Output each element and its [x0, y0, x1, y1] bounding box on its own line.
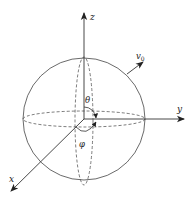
v0-vector — [127, 62, 143, 74]
spherical-coordinates-diagram: z y x v0 θ φ — [0, 0, 193, 202]
x-axis — [11, 119, 84, 191]
v0-label: v0 — [136, 51, 145, 62]
theta-arc — [84, 107, 96, 118]
x-axis-label: x — [9, 174, 14, 184]
z-axis-label: z — [89, 12, 95, 22]
theta-label: θ — [85, 95, 90, 105]
y-axis-label: y — [176, 104, 183, 114]
phi-label: φ — [79, 139, 85, 149]
